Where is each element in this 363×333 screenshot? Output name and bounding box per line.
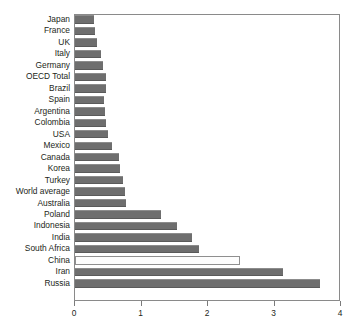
- bar-row: Poland: [0, 209, 363, 220]
- bar: [75, 15, 94, 23]
- category-label: France: [0, 25, 74, 36]
- bar-track: [75, 153, 119, 161]
- category-label: Germany: [0, 60, 74, 71]
- bar-track: [75, 107, 105, 115]
- category-label: Spain: [0, 94, 74, 105]
- category-label: OECD Total: [0, 71, 74, 82]
- x-tick-label: 2: [205, 308, 210, 318]
- bar-row: Indonesia: [0, 220, 363, 231]
- bar: [75, 107, 105, 115]
- bar-track: [75, 256, 240, 264]
- bar-track: [75, 176, 123, 184]
- category-label: Poland: [0, 209, 74, 220]
- bar: [75, 61, 103, 69]
- bar-track: [75, 164, 120, 172]
- category-label: Argentina: [0, 106, 74, 117]
- bar-row: Turkey: [0, 175, 363, 186]
- bar-row: China: [0, 255, 363, 266]
- bar-track: [75, 210, 161, 218]
- category-label: Mexico: [0, 140, 74, 151]
- category-label: Italy: [0, 48, 74, 59]
- category-label: South Africa: [0, 243, 74, 254]
- category-label: Iran: [0, 266, 74, 277]
- bar-track: [75, 38, 97, 46]
- category-label: Australia: [0, 198, 74, 209]
- bar: [75, 199, 126, 207]
- category-label: Russia: [0, 278, 74, 289]
- bar: [75, 119, 106, 127]
- bar-row: Italy: [0, 48, 363, 59]
- bar-track: [75, 73, 106, 81]
- bar: [75, 153, 119, 161]
- bar: [75, 50, 101, 58]
- bar-row: Germany: [0, 60, 363, 71]
- bar-track: [75, 279, 320, 287]
- bar-row: Argentina: [0, 106, 363, 117]
- bar-track: [75, 222, 177, 230]
- bar-track: [75, 130, 108, 138]
- bar: [75, 245, 199, 253]
- bar-row: Australia: [0, 198, 363, 209]
- x-tick: [340, 301, 341, 306]
- bar-track: [75, 233, 192, 241]
- bar-track: [75, 199, 126, 207]
- bar: [75, 176, 123, 184]
- bar: [75, 187, 125, 195]
- bar: [75, 268, 283, 276]
- bar-row: Japan: [0, 14, 363, 25]
- bar: [75, 38, 97, 46]
- bar-track: [75, 15, 94, 23]
- bar-track: [75, 61, 103, 69]
- bar: [75, 222, 177, 230]
- bar-row: Canada: [0, 152, 363, 163]
- bar-chart: JapanFranceUKItalyGermanyOECD TotalBrazi…: [0, 0, 363, 333]
- bar-row: Iran: [0, 266, 363, 277]
- bar: [75, 96, 104, 104]
- x-tick: [274, 301, 275, 306]
- bar: [75, 233, 192, 241]
- bar: [75, 279, 320, 287]
- bar-track: [75, 268, 283, 276]
- bar-track: [75, 119, 106, 127]
- bar-rows: JapanFranceUKItalyGermanyOECD TotalBrazi…: [0, 14, 363, 301]
- bar-track: [75, 245, 199, 253]
- bar-track: [75, 187, 125, 195]
- bar-track: [75, 142, 112, 150]
- category-label: China: [0, 255, 74, 266]
- bar: [75, 84, 106, 92]
- bar-track: [75, 27, 95, 35]
- x-tick-label: 0: [72, 308, 77, 318]
- bar-row: France: [0, 25, 363, 36]
- bar: [75, 73, 106, 81]
- bar-row: Spain: [0, 94, 363, 105]
- category-label: Canada: [0, 152, 74, 163]
- category-label: USA: [0, 129, 74, 140]
- x-tick: [141, 301, 142, 306]
- category-label: Colombia: [0, 117, 74, 128]
- bar-track: [75, 84, 106, 92]
- bar-row: Russia: [0, 278, 363, 289]
- x-tick-label: 1: [138, 308, 143, 318]
- bar: [75, 27, 95, 35]
- bar: [75, 256, 240, 264]
- category-label: UK: [0, 37, 74, 48]
- bar: [75, 130, 108, 138]
- category-label: World average: [0, 186, 74, 197]
- bar-row: UK: [0, 37, 363, 48]
- x-tick: [74, 301, 75, 306]
- category-label: Korea: [0, 163, 74, 174]
- bar: [75, 210, 161, 218]
- bar-row: Brazil: [0, 83, 363, 94]
- bar-row: USA: [0, 129, 363, 140]
- bar-track: [75, 96, 104, 104]
- x-tick-label: 4: [338, 308, 343, 318]
- category-label: Indonesia: [0, 220, 74, 231]
- category-label: India: [0, 232, 74, 243]
- bar-row: South Africa: [0, 243, 363, 254]
- bar-row: World average: [0, 186, 363, 197]
- x-axis: 01234: [74, 301, 340, 327]
- bar-row: Colombia: [0, 117, 363, 128]
- bar: [75, 164, 120, 172]
- category-label: Japan: [0, 14, 74, 25]
- bar-track: [75, 50, 101, 58]
